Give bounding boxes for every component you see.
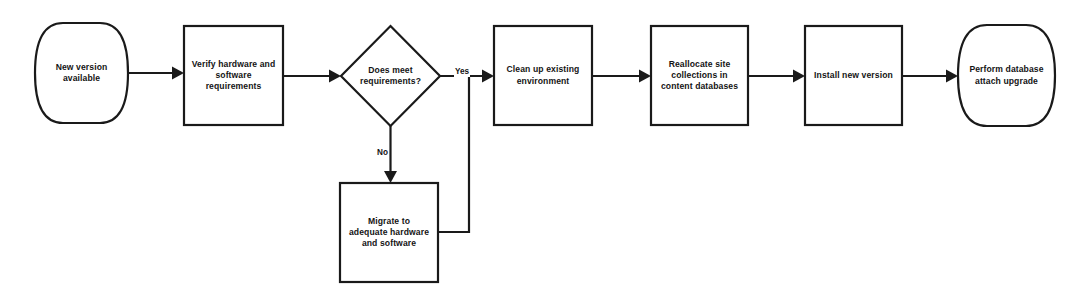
flowchart-diagram: New version available Verify hardware an… [0,0,1087,302]
edge-reallocate-to-install [748,70,805,83]
node-shape-new-version-available[interactable] [35,23,128,123]
edge-label-yes: Yes [454,67,470,77]
flowchart-canvas [0,0,1087,302]
node-shape-install-new-version[interactable] [805,26,902,125]
edge-label-no: No [376,148,389,158]
edge-migrate-to-cleanup [438,76,469,232]
node-shape-does-meet-requirements[interactable] [341,26,440,126]
node-shape-clean-up-existing-environment[interactable] [494,26,592,125]
edge-install-to-perform [902,70,958,83]
edge-new-version-to-verify [128,67,184,80]
node-shape-migrate-to-adequate-hardware-and-software[interactable] [340,183,438,282]
node-shape-perform-database-attach-upgrade[interactable] [958,25,1055,126]
node-shape-reallocate-site-collections[interactable] [651,26,748,125]
edge-verify-to-decision [283,70,341,83]
node-shape-verify-hardware-software-requirements[interactable] [184,26,283,125]
edge-cleanup-to-reallocate [592,70,651,83]
